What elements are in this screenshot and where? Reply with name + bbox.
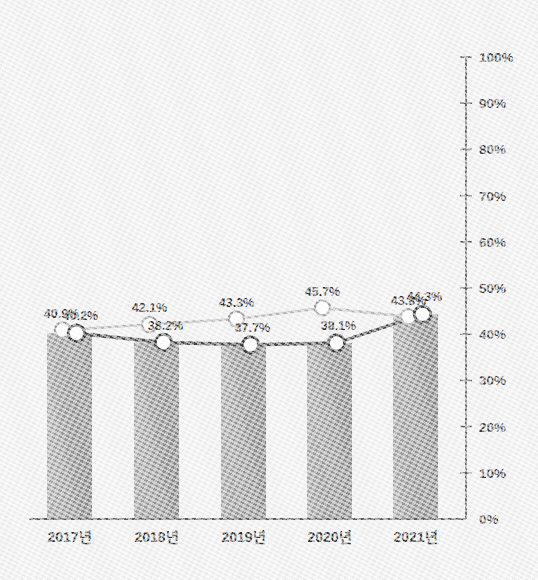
y-axis-tick-label: 40% [479, 327, 506, 342]
bar [307, 343, 352, 519]
y-axis-tick-label: 50% [479, 281, 506, 296]
x-axis-category-labels: 2017년2018년2019년2020년2021년 [47, 529, 437, 545]
y-axis-tick-label: 100% [479, 50, 514, 65]
y-axis-tick-label: 90% [479, 96, 506, 111]
y-axis-tick-label: 30% [479, 373, 506, 388]
data-label-light: 45.7% [305, 285, 340, 299]
bar [393, 314, 438, 519]
marker-light [315, 300, 330, 315]
data-label-light: 43.3% [219, 296, 254, 310]
marker-dark [242, 337, 258, 353]
marker-dark [414, 306, 430, 322]
marker-dark [328, 335, 344, 351]
chart-container: 40.9%42.1%43.3%45.7%43.8%40.2%38.2%37.7%… [0, 0, 538, 580]
data-label-dark: 40.2% [63, 309, 98, 323]
bar [47, 333, 92, 519]
y-axis-tick-labels: 0%10%20%30%40%50%60%70%80%90%100% [479, 50, 514, 527]
chart-svg: 40.9%42.1%43.3%45.7%43.8%40.2%38.2%37.7%… [0, 0, 538, 580]
x-axis-category-label: 2020년 [307, 529, 351, 545]
data-label-dark: 38.2% [148, 319, 183, 333]
y-axis-tick-label: 20% [479, 420, 506, 435]
x-axis-category-label: 2019년 [221, 529, 265, 545]
data-label-light: 42.1% [132, 301, 167, 315]
bar [134, 343, 179, 519]
data-label-dark: 37.7% [235, 321, 270, 335]
x-axis-category-label: 2021년 [393, 529, 437, 545]
y-axis-tick-label: 70% [479, 189, 506, 204]
marker-dark [68, 325, 84, 341]
x-axis-category-label: 2017년 [47, 529, 91, 545]
y-axis-tick-label: 80% [479, 142, 506, 157]
y-axis-tick-label: 60% [479, 235, 506, 250]
x-axis-category-label: 2018년 [134, 529, 178, 545]
y-axis-tick-label: 10% [479, 466, 506, 481]
data-label-dark: 44.3% [407, 290, 442, 304]
marker-dark [155, 334, 171, 350]
data-label-dark: 38.1% [321, 319, 356, 333]
y-axis-tick-label: 0% [479, 512, 499, 527]
bar [221, 345, 266, 519]
